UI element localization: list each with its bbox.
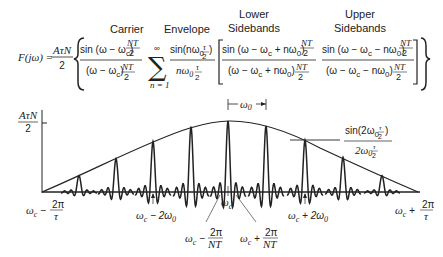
svg-text:(ω − ωc − nω0): (ω − ωc − nω0) [326,65,393,79]
svg-text:NT: NT [262,238,277,250]
upper-sidebands-label-2: Sidebands [334,22,386,34]
svg-text:ωc + 2ω0: ωc + 2ω0 [288,209,328,224]
svg-text:NT: NT [393,62,406,72]
svg-text:2: 2 [129,48,134,58]
svg-text:2: 2 [372,152,376,159]
svg-text:2π: 2π [210,227,223,238]
upper-sidebands-fraction: sin (ω − ωc − nω0) NT 2 (ω − ωc − nω0) N… [322,38,414,82]
svg-text:2: 2 [402,48,407,58]
svg-text:τ: τ [203,43,207,52]
svg-text:nω0: nω0 [176,64,193,79]
svg-text:ωc − 2ω0: ωc − 2ω0 [136,209,176,224]
lhs-function: F(jω) = [17,51,53,64]
svg-text:sin(2ω0: sin(2ω0 [345,125,379,139]
svg-text:2: 2 [195,73,200,82]
svg-text:2: 2 [303,48,308,58]
coef-denominator: 2 [59,60,65,71]
svg-text:sin (ω − ωc): sin (ω − ωc) [80,44,133,58]
svg-text:ωc −: ωc − [26,204,46,219]
svg-text:ωc −: ωc − [185,232,205,247]
svg-text:NT: NT [121,62,134,72]
svg-text:2: 2 [124,72,129,82]
svg-text:NT: NT [207,238,222,250]
svg-text:NT: NT [295,62,308,72]
x-label-left-end: ωc − 2π τ [26,199,65,222]
svg-text:2: 2 [378,133,382,140]
upper-sidebands-label-1: Upper [345,8,375,20]
svg-text:sin (ω − ωc − nω0): sin (ω − ωc − nω0) [322,44,404,58]
svg-text:∑: ∑ [148,52,167,82]
svg-text:NT: NT [399,38,412,48]
svg-text:2: 2 [298,72,303,82]
svg-text:2ω0: 2ω0 [355,144,372,158]
lower-sidebands-label-1: Lower [239,8,269,20]
coef-numerator: AτN [52,44,72,56]
lower-sidebands-fraction: sin (ω − ωc + nω0) NT 2 (ω − ωc + nω0) N… [222,38,316,82]
svg-text:): ) [385,125,388,136]
omega0-spacing-marker: ω0 [228,98,266,112]
envelope-sum: ∞ ∑ n = 1 sin(nω0 τ 2 ) nω0 τ 2 [148,43,215,90]
equation: Carrier Envelope Lower Sidebands Upper S… [17,8,430,90]
spectral-line-peak [248,126,284,206]
x-label-minus-2pi-nt: ωc − 2π NT [185,195,223,250]
spectral-line-peak [325,157,361,199]
svg-text:τ: τ [424,210,429,222]
svg-text:ωc +: ωc + [395,204,415,219]
svg-text:sin (ω − ωc + nω0): sin (ω − ωc + nω0) [222,44,304,58]
diagram-canvas: Carrier Envelope Lower Sidebands Upper S… [0,0,443,257]
svg-text:τ: τ [196,63,200,72]
svg-text:NT: NT [126,38,139,48]
svg-text:(ω − ωc + nω0): (ω − ωc + nω0) [228,65,295,79]
svg-text:τ: τ [54,210,59,222]
x-label-right-end: ωc + 2π τ [395,199,435,222]
svg-text:2: 2 [396,72,401,82]
svg-text:n = 1: n = 1 [150,80,170,90]
y-label-denominator: 2 [25,123,31,134]
svg-text:τ: τ [373,143,376,151]
spectral-line-peak [173,127,209,206]
svg-text:2π: 2π [265,227,278,238]
right-brace [421,38,430,90]
svg-text:ωc +: ωc + [240,232,260,247]
svg-text:ω0: ω0 [240,98,252,112]
carrier-fraction: sin (ω − ωc) NT 2 (ω − ωc) NT 2 [80,38,142,82]
envelope-label: Envelope [164,23,210,35]
svg-text:2π: 2π [422,199,435,210]
svg-text:sin(nω0: sin(nω0 [170,44,204,58]
svg-text:NT: NT [300,38,313,48]
carrier-label: Carrier [110,23,144,35]
y-label-numerator: AτN [18,109,38,121]
svg-text:τ: τ [379,124,382,132]
spectrum-plot: AτN 2 ω0 sin(2ω0 τ 2 ) 2ω0 τ [18,98,435,250]
lower-sidebands-label-2: Sidebands [228,22,280,34]
svg-text:(ω − ωc): (ω − ωc) [86,65,124,79]
svg-text:2π: 2π [52,199,65,210]
svg-text:): ) [209,44,212,55]
